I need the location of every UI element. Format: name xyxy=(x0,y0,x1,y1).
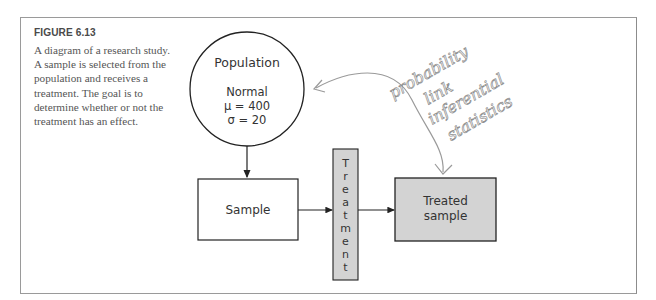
treatment-letter: T xyxy=(341,157,349,170)
population-sd: σ = 20 xyxy=(228,113,267,127)
treatment-letter: e xyxy=(342,183,349,196)
research-study-diagram: Population Normal μ = 400 σ = 20 Sample … xyxy=(0,0,656,300)
treatment-letter: a xyxy=(342,196,349,209)
treatment-node: T r e a t m e n t xyxy=(333,149,358,280)
population-distribution: Normal xyxy=(226,85,268,99)
treatment-letter: m xyxy=(340,222,351,235)
population-node: Population Normal μ = 400 σ = 20 xyxy=(190,32,304,146)
treated-sample-line2: sample xyxy=(424,209,468,223)
treatment-letter: n xyxy=(342,248,349,261)
treatment-letter: t xyxy=(343,261,348,274)
treated-sample-node: Treated sample xyxy=(395,178,496,241)
population-title: Population xyxy=(214,55,280,70)
treatment-letter: e xyxy=(342,235,349,248)
sample-label: Sample xyxy=(226,203,271,217)
treatment-letter: t xyxy=(343,209,348,222)
population-mean: μ = 400 xyxy=(224,99,270,113)
treated-sample-line1: Treated xyxy=(422,194,468,208)
treatment-letter: r xyxy=(343,170,348,183)
sample-node: Sample xyxy=(198,179,298,240)
